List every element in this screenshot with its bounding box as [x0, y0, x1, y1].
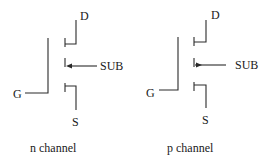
p-gate-label: G — [146, 86, 155, 100]
p-source-lead — [194, 85, 206, 108]
p-source-label: S — [202, 113, 209, 127]
p-channel-symbol: D SUB G S p channel — [146, 8, 258, 155]
n-channel-symbol: D SUB G S n channel — [13, 9, 123, 155]
n-substrate-label: SUB — [100, 59, 123, 73]
n-drain-lead — [65, 20, 76, 44]
p-drain-label: D — [211, 8, 220, 22]
p-substrate-arrow-icon — [196, 63, 202, 68]
p-substrate-label: SUB — [235, 58, 258, 72]
p-channel-caption: p channel — [167, 141, 214, 155]
n-substrate-arrow-icon — [66, 64, 72, 69]
n-source-label: S — [72, 115, 79, 129]
p-drain-lead — [194, 20, 206, 42]
n-channel-caption: n channel — [30, 141, 77, 155]
n-gate-lead — [25, 38, 48, 93]
mosfet-diagram: D SUB G S n channel D SUB G S p channel — [0, 0, 271, 156]
n-drain-label: D — [80, 9, 89, 23]
p-gate-lead — [159, 37, 178, 90]
n-source-lead — [65, 86, 76, 110]
n-gate-label: G — [13, 87, 22, 101]
